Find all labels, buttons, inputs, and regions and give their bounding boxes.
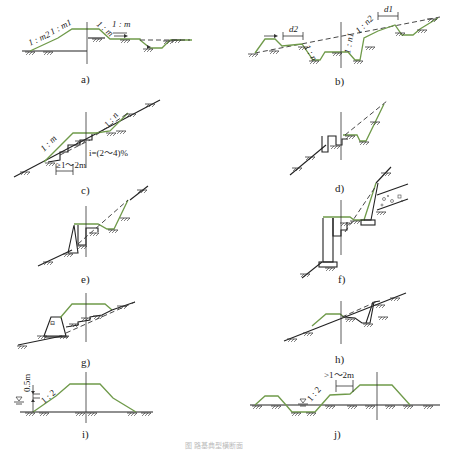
panel-g: ⊟ g) bbox=[17, 293, 135, 369]
water-level-icon bbox=[14, 397, 24, 404]
figure-caption: 图 路基典型横断面 bbox=[185, 441, 243, 450]
panel-label-i: i) bbox=[82, 428, 89, 441]
slope-ratio-m-b: 1 : m bbox=[112, 19, 131, 29]
panel-label-d: d) bbox=[335, 182, 345, 195]
panel-label-j: j) bbox=[333, 428, 341, 441]
panel-label-f: f) bbox=[338, 273, 346, 286]
panel-label-c: c) bbox=[81, 184, 90, 197]
panel-label-b: b) bbox=[335, 75, 345, 88]
slope-ratio-1-2-i: 1 : 2 bbox=[39, 388, 58, 406]
distance-d1: d1 bbox=[384, 4, 393, 14]
panel-label-e: e) bbox=[81, 273, 90, 286]
panel-label-g: g) bbox=[81, 356, 91, 369]
panel-a: 1 : m2 1 : m1 1 : m 1 : m a) bbox=[22, 17, 192, 86]
panel-i: 0.5m 1 : 2 i) bbox=[14, 372, 153, 441]
distance-d2: d2 bbox=[289, 24, 299, 34]
roadbed-cross-sections-diagram: 1 : m2 1 : m1 1 : m 1 : m a) d2 d1 1 : n… bbox=[0, 0, 449, 451]
crossfall-gradient: i=(2～4)% bbox=[89, 148, 129, 158]
panel-label-h: h) bbox=[335, 353, 345, 366]
panel-b: d2 d1 1 : n 1 : n1 1 : n2 b) bbox=[248, 4, 440, 88]
panel-d: d) bbox=[290, 101, 387, 195]
gabion-mark-top: ⊟ bbox=[50, 320, 55, 326]
step-width-j: >1～2m bbox=[324, 370, 354, 380]
panel-label-a: a) bbox=[81, 73, 90, 86]
panel-e: e) bbox=[38, 186, 148, 286]
panel-c: 1 : m 1 : n i=(2～4)% ≥1～2m c) bbox=[14, 100, 160, 197]
step-width: ≥1～2m bbox=[56, 160, 86, 170]
slope-ratio-m1: 1 : m1 bbox=[48, 17, 73, 37]
slope-ratio-n2: 1 : n2 bbox=[353, 13, 375, 35]
panel-j: >1～2m 1 : 2 j) bbox=[250, 370, 440, 441]
panel-f: f) bbox=[300, 167, 408, 286]
panel-h: h) bbox=[284, 293, 406, 366]
freeboard-height: 0.5m bbox=[22, 374, 32, 392]
slope-ratio-m2: 1 : m2 bbox=[27, 29, 53, 48]
slope-ratio-n-c: 1 : n bbox=[102, 110, 121, 129]
slope-ratio-1-2-j: 1 : 2 bbox=[305, 385, 323, 404]
